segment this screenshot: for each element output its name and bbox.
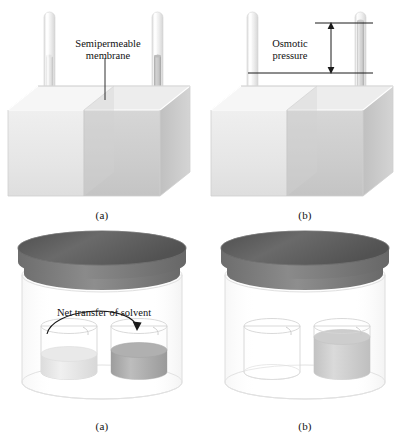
caption-panel-a-top: (a) — [0, 209, 204, 221]
net-transfer-label: Net transfer of solvent — [36, 307, 172, 319]
caption-panel-b-top: (b) — [203, 209, 407, 221]
panel-a-bot — [0, 230, 204, 420]
semipermeable-membrane-label: Semipermeable membrane — [52, 38, 164, 63]
sealed-jar-before-transfer — [0, 230, 204, 420]
right-beaker — [111, 319, 167, 380]
sealed-jar-after-transfer — [203, 230, 407, 420]
box-front-left — [8, 110, 84, 196]
caption-panel-b-bottom: (b) — [203, 420, 407, 432]
left-beaker — [244, 319, 300, 380]
box-front-left — [211, 110, 287, 196]
membrane-cell-osmotic-pressure — [203, 0, 407, 209]
membrane-cell-equal-levels — [0, 0, 204, 209]
panel-b-top — [203, 0, 407, 209]
panel-a-top — [0, 0, 204, 209]
panel-b-bot — [203, 230, 407, 420]
right-beaker — [314, 319, 370, 380]
left-beaker-liquid-surface — [41, 347, 97, 362]
caption-panel-a-bottom: (a) — [0, 420, 204, 432]
right-beaker-liquid-surface — [111, 343, 167, 358]
osmosis-figure: Semipermeable membrane Osmotic pressure … — [0, 0, 407, 442]
osmotic-pressure-label: Osmotic pressure — [254, 38, 326, 63]
